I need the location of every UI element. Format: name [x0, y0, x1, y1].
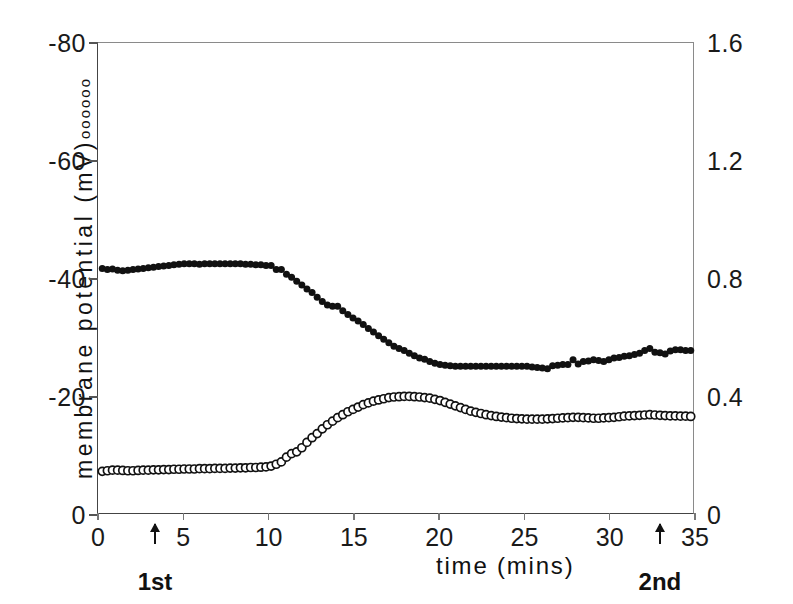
data-point: [687, 412, 695, 420]
left-tick-label: -60: [48, 147, 86, 176]
x-tick-label: 25: [511, 523, 539, 552]
annotation-label-1st: 1st: [138, 568, 173, 596]
x-tick-label: 5: [176, 523, 190, 552]
left-axis-legend-marker: oooooo: [76, 77, 93, 139]
right-tick-label: 1.6: [707, 29, 743, 58]
arrow-head: [655, 523, 665, 532]
left-tick-label: -20: [48, 383, 86, 412]
arrow-head: [150, 523, 160, 532]
left-tick-mark: [89, 42, 98, 44]
x-tick-label: 10: [255, 523, 283, 552]
figure-root: membrane potential (mV)oooooo membrane r…: [0, 0, 793, 604]
x-tick-label: 15: [340, 523, 368, 552]
right-tick-label: 1.2: [707, 147, 743, 176]
right-tick-label: 0: [707, 501, 721, 530]
data-point: [564, 361, 571, 368]
data-point: [334, 303, 341, 310]
data-layer: [98, 43, 695, 515]
x-tick-label: 30: [596, 523, 624, 552]
plot-frame: membrane potential (mV)oooooo membrane r…: [97, 42, 694, 514]
left-tick-mark: [89, 278, 98, 280]
right-tick-label: 0.8: [707, 265, 743, 294]
left-tick-label: 0: [72, 501, 86, 530]
left-tick-label: -40: [48, 265, 86, 294]
data-point: [687, 347, 694, 354]
left-tick-label: -80: [48, 29, 86, 58]
left-tick-mark: [89, 396, 98, 398]
data-point: [278, 266, 285, 273]
annotation-label-2nd: 2nd: [639, 568, 682, 596]
series-membrane-potential: [99, 260, 694, 372]
series-membrane-resistance: [98, 392, 694, 475]
left-axis-title-text: membrane potential (mV): [71, 139, 97, 479]
right-tick-label: 0.4: [707, 383, 743, 412]
left-tick-mark: [89, 160, 98, 162]
x-tick-label: 20: [425, 523, 453, 552]
x-tick-label: 0: [91, 523, 105, 552]
x-tick-label: 35: [681, 523, 709, 552]
x-axis-title: time (mins): [436, 552, 574, 580]
